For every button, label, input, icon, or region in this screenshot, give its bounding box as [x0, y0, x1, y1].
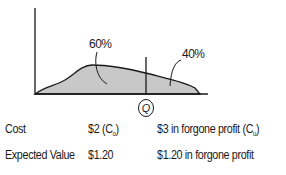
row-cost-label: Cost [5, 122, 26, 136]
label-60-percent: 60% [89, 37, 112, 51]
underage-close: ) [256, 122, 259, 136]
distribution-area [35, 65, 200, 94]
label-40-percent: 40% [182, 47, 205, 61]
overage-close: ) [116, 122, 119, 136]
q-marker-label: Q [142, 102, 151, 114]
expected-value-overage: $1.20 [88, 148, 113, 162]
row-expected-value-label: Expected Value [5, 148, 75, 162]
underage-cost-text: $3 in forgone profit (C [157, 122, 253, 136]
distribution-diagram: Q 60% 40% [0, 0, 286, 118]
row-cost-overage: $2 (Co) [88, 122, 119, 137]
overage-cost-text: $2 (C [88, 122, 113, 136]
expected-value-underage: $1.20 in forgone profit [157, 148, 254, 162]
row-cost-underage: $3 in forgone profit (Cu) [157, 122, 259, 137]
